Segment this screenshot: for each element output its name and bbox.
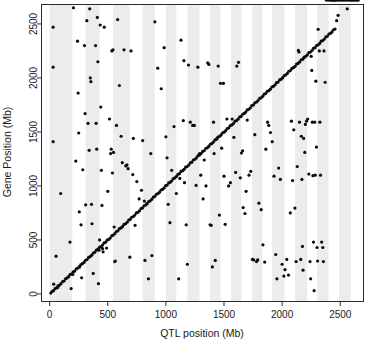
data-point <box>153 20 156 23</box>
data-point <box>300 178 303 181</box>
data-point <box>133 224 136 227</box>
chromosome-band <box>143 5 155 302</box>
data-point <box>220 147 223 150</box>
data-point <box>214 259 217 262</box>
data-point <box>89 80 92 83</box>
data-point <box>299 258 302 261</box>
y-tick-label: 500 <box>28 231 39 248</box>
data-point <box>86 122 89 125</box>
plot-canvas: 05001000150020002500 0500100015002000250… <box>0 0 374 343</box>
data-point <box>147 277 150 280</box>
data-point <box>207 63 210 66</box>
data-point <box>116 18 119 21</box>
data-point <box>97 249 100 252</box>
data-point <box>96 16 99 19</box>
data-point <box>301 245 304 248</box>
data-point <box>281 263 284 266</box>
data-point <box>187 63 190 66</box>
data-point <box>140 189 143 192</box>
data-point <box>195 184 198 187</box>
data-point <box>249 170 252 173</box>
data-point <box>79 223 82 226</box>
data-point <box>122 48 125 51</box>
data-point <box>90 222 93 225</box>
data-point <box>179 39 182 42</box>
data-point <box>129 49 132 52</box>
data-point <box>115 124 118 127</box>
data-point <box>74 160 77 163</box>
chromosome-band <box>339 5 351 302</box>
data-point <box>237 61 240 64</box>
data-point <box>222 175 225 178</box>
data-point <box>111 171 114 174</box>
data-point <box>106 190 109 193</box>
data-point <box>83 112 86 115</box>
data-point <box>186 263 189 266</box>
data-point <box>272 175 275 178</box>
data-point <box>219 82 222 85</box>
data-point <box>99 23 102 26</box>
data-point <box>277 167 280 170</box>
data-point <box>293 206 296 209</box>
data-point <box>94 44 97 47</box>
data-point <box>90 203 93 206</box>
data-point <box>112 151 115 154</box>
y-tick-label: 2500 <box>28 12 39 35</box>
data-point <box>310 55 313 58</box>
data-point <box>170 169 173 172</box>
data-point <box>88 7 91 10</box>
y-tick-label: 0 <box>28 291 39 297</box>
chromosome-band <box>50 5 73 302</box>
chromosome-band <box>166 5 176 302</box>
data-point <box>232 136 235 139</box>
y-tick-label: 1500 <box>28 120 39 143</box>
data-point <box>322 49 325 52</box>
data-point <box>185 223 188 226</box>
data-point <box>156 67 159 70</box>
y-axis-title: Gene Position (Mb) <box>1 107 13 197</box>
data-point <box>203 158 206 161</box>
chromosome-band <box>252 5 262 302</box>
data-point <box>260 208 263 211</box>
x-tick-label: 1500 <box>213 309 236 320</box>
data-point <box>303 56 306 59</box>
data-point <box>72 6 75 9</box>
data-point <box>306 117 309 120</box>
data-point <box>321 246 324 249</box>
data-point <box>322 260 325 263</box>
data-point <box>297 50 300 53</box>
data-point <box>217 64 220 67</box>
data-point <box>308 260 311 263</box>
data-point <box>163 46 166 49</box>
chromosome-band <box>272 5 284 302</box>
data-point <box>241 149 244 152</box>
data-point <box>324 81 327 84</box>
data-point <box>78 210 81 213</box>
data-point <box>92 272 95 275</box>
data-point <box>304 123 307 126</box>
data-point <box>261 243 264 246</box>
data-point <box>177 277 180 280</box>
y-axis-ticks: 05001000150020002500 <box>28 12 42 296</box>
x-axis-title: QTL position (Mb) <box>160 327 244 339</box>
scatter-plot-figure: 05001000150020002500 0500100015002000250… <box>0 0 374 343</box>
data-point <box>314 80 317 83</box>
data-point <box>77 131 80 134</box>
data-point <box>167 203 170 206</box>
data-point <box>319 174 322 177</box>
data-point <box>52 26 55 29</box>
data-point <box>215 137 218 140</box>
data-point <box>283 268 286 271</box>
data-point <box>102 250 105 253</box>
data-point <box>235 64 238 67</box>
data-point <box>114 259 117 262</box>
data-point <box>231 117 234 120</box>
data-point <box>164 135 167 138</box>
data-point <box>89 76 92 79</box>
data-point <box>225 117 228 120</box>
data-point <box>266 121 269 124</box>
data-point <box>316 259 319 262</box>
data-point <box>99 106 102 109</box>
data-point <box>118 84 121 87</box>
data-point <box>242 206 245 209</box>
